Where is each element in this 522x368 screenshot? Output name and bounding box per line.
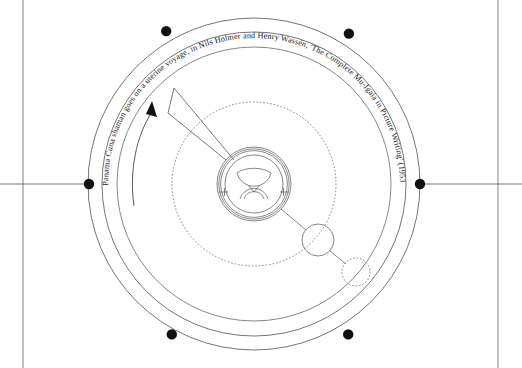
- node-lower-right[interactable]: [343, 329, 353, 339]
- caption: Panama Cuna shaman goes on a uterine voy…: [0, 0, 407, 186]
- glyph-ring-inner: [225, 155, 283, 213]
- direction-arrow: [132, 101, 157, 206]
- outer-ring: [88, 18, 420, 350]
- node-right[interactable]: [415, 179, 425, 189]
- glyph-ring-outer-2: [219, 149, 289, 219]
- satellite-link-1: [281, 209, 306, 230]
- glyph-ring-outer: [217, 147, 291, 221]
- glyph-ring-outer-3: [221, 151, 288, 218]
- lower-arc-inner: [244, 192, 264, 199]
- satellite-dotted: [342, 258, 370, 286]
- arrow-head-icon: [146, 101, 157, 117]
- caption-textpath: Panama Cuna shaman goes on a uterine voy…: [0, 0, 407, 186]
- crescent-bowl-inner: [237, 168, 271, 173]
- caption-text: Panama Cuna shaman goes on a uterine voy…: [0, 0, 407, 186]
- satellite-solid: [302, 224, 334, 256]
- wedge-outline: [168, 88, 234, 160]
- orbit-ring: [172, 102, 336, 266]
- node-upper-left[interactable]: [161, 26, 171, 36]
- lower-arc: [240, 188, 268, 199]
- node-left[interactable]: [84, 179, 94, 189]
- diagram-page: Panama Cuna shaman goes on a uterine voy…: [0, 0, 522, 368]
- perimeter-nodes: [84, 26, 425, 340]
- crescent-bowl-outer: [237, 173, 271, 186]
- cosmogram-svg: Panama Cuna shaman goes on a uterine voy…: [0, 0, 522, 368]
- arrow-shaft: [132, 112, 152, 206]
- inner-ring: [117, 47, 391, 321]
- rings: [88, 18, 420, 350]
- node-upper-right[interactable]: [344, 28, 354, 38]
- voyage-wedge: [168, 88, 234, 160]
- womb-glyph: [217, 147, 291, 221]
- satellite-link-2: [330, 251, 346, 264]
- node-lower-left[interactable]: [167, 329, 177, 339]
